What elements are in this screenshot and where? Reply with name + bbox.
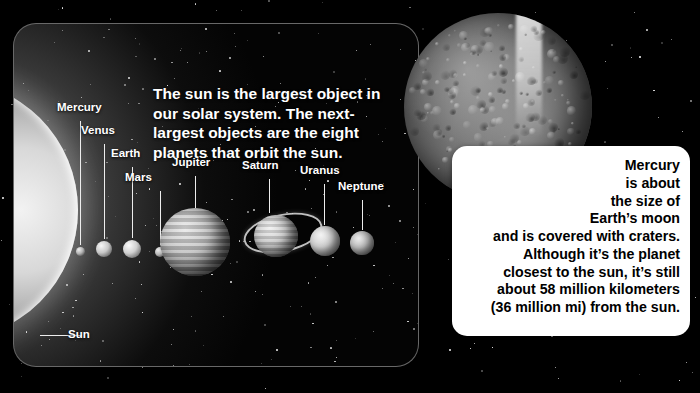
star (308, 282, 309, 283)
star (124, 84, 126, 86)
star (21, 376, 22, 377)
crater (508, 24, 514, 30)
star (219, 70, 221, 72)
star (327, 265, 328, 266)
crater (515, 72, 526, 83)
star (353, 227, 354, 228)
crater (432, 106, 442, 116)
crater (498, 67, 508, 77)
star (229, 57, 231, 59)
star (75, 340, 76, 341)
star (332, 257, 333, 258)
star (230, 281, 232, 283)
mercury-fact-line: Although it’s the planet (462, 246, 680, 264)
mercury-fact-text: Mercuryis aboutthe size ofEarth’s moonan… (462, 157, 680, 317)
crater (450, 100, 454, 104)
star (367, 214, 368, 215)
star (365, 78, 367, 80)
star (149, 188, 150, 189)
star (253, 209, 255, 211)
planet-saturn (254, 215, 298, 257)
mercury-fact-line: Mercury (462, 157, 680, 175)
star (199, 52, 200, 53)
star (448, 259, 449, 260)
star (327, 180, 329, 182)
star (216, 10, 217, 11)
label-jupiter: Jupiter (172, 156, 210, 168)
star (400, 49, 401, 50)
star (149, 251, 150, 252)
star (211, 274, 212, 275)
crater (527, 98, 535, 106)
crater (413, 82, 421, 90)
crater (559, 46, 570, 57)
star (227, 219, 228, 220)
star (658, 117, 659, 118)
star (271, 359, 272, 360)
crater (470, 85, 480, 95)
star (2, 197, 4, 199)
star (412, 293, 413, 294)
star (661, 42, 663, 44)
leader-saturn (269, 179, 270, 213)
star (137, 142, 138, 143)
star (449, 349, 451, 351)
star (413, 328, 415, 330)
star (334, 361, 335, 362)
star (639, 374, 640, 375)
leader-uranus (324, 184, 325, 225)
star (322, 2, 323, 3)
crater (486, 127, 490, 131)
star (630, 47, 631, 48)
crater (561, 94, 564, 97)
star (393, 283, 394, 284)
crater (424, 103, 432, 111)
star (333, 71, 335, 73)
star (135, 56, 136, 57)
crater (480, 107, 485, 112)
mercury-fact-line: and is covered with craters. (462, 228, 680, 246)
star (23, 83, 24, 84)
crater (569, 70, 578, 79)
crater (463, 61, 468, 66)
crater (449, 137, 455, 143)
crater (575, 129, 580, 134)
crater (476, 64, 480, 68)
star (631, 57, 632, 58)
star (388, 205, 390, 207)
crater (546, 87, 552, 93)
star (142, 367, 143, 368)
crater (496, 117, 504, 125)
star (265, 388, 266, 389)
star (62, 312, 63, 313)
crater (446, 58, 450, 62)
star (142, 312, 143, 313)
star (301, 306, 302, 307)
star (100, 360, 101, 361)
star (330, 347, 332, 349)
star (173, 365, 174, 366)
star (370, 44, 371, 45)
crater (445, 124, 452, 131)
star (85, 162, 87, 164)
star (241, 10, 242, 11)
star (318, 33, 319, 34)
star (315, 277, 316, 278)
star (49, 339, 50, 340)
star (131, 139, 133, 141)
star (566, 40, 567, 41)
crater (517, 140, 522, 145)
star (417, 323, 418, 324)
crater (435, 42, 440, 47)
star (115, 216, 116, 217)
star (156, 225, 157, 226)
mercury-fact-line: the size of (462, 193, 680, 211)
star (206, 51, 207, 52)
star (395, 242, 396, 243)
star (179, 183, 181, 185)
solar-system-panel: The sun is the largest object in our sol… (14, 24, 418, 366)
star (174, 78, 175, 79)
crater (575, 66, 578, 69)
star (181, 48, 182, 49)
star (138, 103, 139, 104)
